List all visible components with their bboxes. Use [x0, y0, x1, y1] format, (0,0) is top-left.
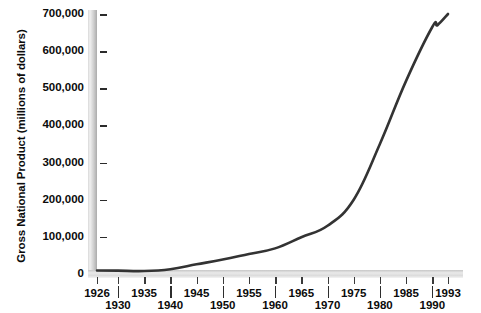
series-line-gnp: [97, 14, 448, 271]
gnp-line-chart: Gross National Product (millions of doll…: [0, 0, 481, 313]
plot-area: [0, 0, 481, 313]
